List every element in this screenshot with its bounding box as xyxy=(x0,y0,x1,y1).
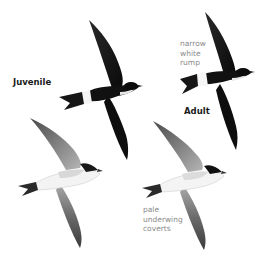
underwing-note-line-3: coverts xyxy=(143,224,183,234)
underwing-note-line-1: pale xyxy=(143,205,183,215)
rump-note-line-1: narrow xyxy=(180,39,206,49)
rump-note-line-2: white xyxy=(180,49,206,59)
rump-note-line-3: rump xyxy=(180,58,206,68)
juvenile-label: Juvenile xyxy=(13,78,51,87)
rump-note: narrow white rump xyxy=(180,39,206,68)
adult-label: Adult xyxy=(184,107,210,116)
adult-underside-bird xyxy=(0,0,274,259)
underwing-note: pale underwing coverts xyxy=(143,205,183,234)
illustration-plate: Juvenile Adult narrow white rump pale un… xyxy=(0,0,274,259)
underwing-note-line-2: underwing xyxy=(143,215,183,225)
